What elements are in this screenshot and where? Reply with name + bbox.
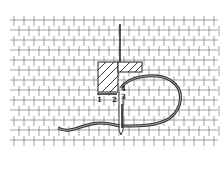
stitch-label-3: 3 (121, 93, 126, 100)
stitch-label-2: 2 (112, 96, 117, 103)
stitch-label-4: 4 (121, 85, 126, 92)
stitch-diagram (0, 0, 223, 172)
stitch-label-1: 1 (97, 96, 102, 103)
needle (119, 24, 123, 135)
